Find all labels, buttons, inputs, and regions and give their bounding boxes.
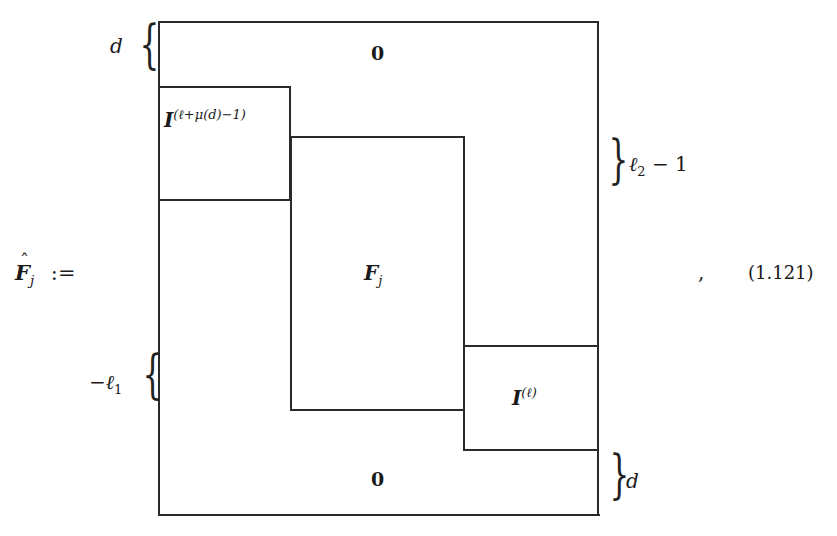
bottom-zero-block: 0 [371, 470, 384, 489]
brace-label-left-lower: −ℓ1 [89, 372, 122, 392]
left-brace-icon: { [143, 348, 163, 400]
frame-top [158, 21, 599, 23]
identity-top-block-bottom [158, 199, 290, 201]
center-block-right [463, 136, 465, 451]
center-symbol: F [364, 261, 378, 285]
frame-right [597, 21, 599, 516]
center-block-top [290, 136, 464, 138]
brace-label-bottom-right: d [626, 471, 639, 491]
brace-label-right-upper: ℓ2 − 1 [629, 154, 688, 174]
identity-bottom-block-bottom [463, 449, 598, 451]
equation-number: (1.121) [748, 264, 814, 282]
identity-bottom-superscript: (ℓ) [521, 385, 537, 400]
identity-top-superscript: (ℓ+μ(d)−1) [173, 107, 246, 122]
top-zero-block: 0 [371, 44, 384, 63]
identity-bottom-label: I(ℓ) [512, 388, 537, 408]
identity-top-label: I(ℓ+μ(d)−1) [164, 110, 246, 130]
hat-accent: ˆ [20, 253, 29, 271]
right-brace-icon: } [609, 133, 629, 185]
center-block-bottom [290, 409, 464, 411]
trailing-comma: , [698, 262, 704, 282]
definition-operator: := [51, 261, 76, 285]
brace-label-top-left: d [110, 36, 123, 56]
center-block-left [290, 136, 292, 411]
left-brace-icon: { [140, 18, 160, 70]
identity-symbol: I [512, 386, 521, 410]
identity-top-block-top [158, 86, 290, 88]
frame-left [158, 21, 160, 516]
center-subscript: j [378, 273, 382, 288]
frame-bottom [160, 514, 600, 516]
identity-symbol: I [164, 108, 173, 132]
lhs-expression: F ˆ j := [15, 262, 76, 284]
lhs-subscript: j [30, 272, 34, 288]
center-label: Fj [364, 263, 382, 283]
identity-bottom-block-top [463, 345, 598, 347]
